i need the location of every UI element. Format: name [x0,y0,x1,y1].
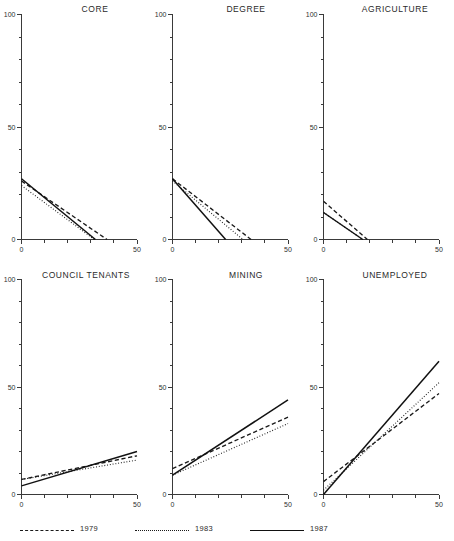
svg-text:0: 0 [12,236,16,243]
panel-title-core: CORE [40,4,150,14]
svg-text:0: 0 [20,501,24,508]
panel-agriculture-plot: 050100050 [302,0,454,266]
svg-text:50: 50 [159,124,167,131]
series-line-1987 [22,452,138,486]
panel-core-plot: 050100050 [0,0,152,266]
panel-title-agriculture: AGRICULTURE [336,4,454,14]
svg-text:100: 100 [155,11,167,18]
legend-swatch-solid-icon [250,530,304,533]
panel-title-council-tenants: COUNCIL TENANTS [22,270,150,280]
panel-council-tenants: COUNCIL TENANTS 050100050 [0,265,152,521]
svg-text:0: 0 [163,491,167,498]
panel-unemployed-plot: 050100050 [302,265,454,521]
svg-text:50: 50 [159,384,167,391]
panel-title-unemployed: UNEMPLOYED [336,270,454,280]
series-line-1983 [22,460,138,479]
svg-text:100: 100 [4,276,16,283]
svg-text:0: 0 [322,501,326,508]
legend-item-1983: 1983 [135,524,245,538]
svg-text:50: 50 [133,501,141,508]
svg-text:0: 0 [171,246,175,253]
svg-text:0: 0 [322,246,326,253]
legend-swatch-dotted-icon [135,530,189,533]
svg-text:100: 100 [306,11,318,18]
svg-text:100: 100 [155,276,167,283]
series-line-1979 [22,456,138,480]
multi-panel-line-chart-figure: CORE 050100050 DEGREE 050100050 AGRICULT… [0,0,454,541]
svg-text:50: 50 [284,501,292,508]
legend-item-1987: 1987 [250,524,360,538]
legend-swatch-dashed-icon [20,530,74,533]
series-line-1987 [173,179,226,240]
svg-text:0: 0 [314,236,318,243]
svg-text:0: 0 [314,491,318,498]
svg-text:50: 50 [435,246,443,253]
panel-mining: MINING 050100050 [151,265,303,521]
series-line-1983 [22,186,95,240]
panel-unemployed: UNEMPLOYED 050100050 [302,265,454,521]
svg-text:50: 50 [310,384,318,391]
legend-item-1979: 1979 [20,524,130,538]
panel-core: CORE 050100050 [0,0,152,266]
series-line-1979 [173,417,289,469]
svg-text:0: 0 [163,236,167,243]
svg-text:0: 0 [12,491,16,498]
panel-title-mining: MINING [191,270,301,280]
series-line-1987 [324,213,363,240]
svg-text:0: 0 [171,501,175,508]
svg-text:50: 50 [435,501,443,508]
panel-title-degree: DEGREE [191,4,301,14]
series-line-1979 [324,393,440,481]
panel-agriculture: AGRICULTURE 050100050 [302,0,454,266]
legend-label-1983: 1983 [195,524,213,533]
panel-council-tenants-plot: 050100050 [0,265,152,521]
svg-text:0: 0 [20,246,24,253]
series-line-1987 [324,361,440,494]
svg-text:100: 100 [4,11,16,18]
series-line-1987 [173,400,289,475]
chart-legend: 1979 1983 1987 [0,521,454,541]
svg-text:100: 100 [306,276,318,283]
panel-mining-plot: 050100050 [151,265,303,521]
svg-text:50: 50 [133,246,141,253]
legend-label-1979: 1979 [80,524,98,533]
legend-label-1987: 1987 [310,524,328,533]
svg-text:50: 50 [310,124,318,131]
series-line-1979 [173,179,252,240]
series-line-1979 [324,201,368,239]
series-line-1983 [173,424,289,476]
panel-degree-plot: 050100050 [151,0,303,266]
svg-text:50: 50 [8,124,16,131]
svg-text:50: 50 [8,384,16,391]
panel-degree: DEGREE 050100050 [151,0,303,266]
svg-text:50: 50 [284,246,292,253]
series-line-1987 [22,179,96,240]
